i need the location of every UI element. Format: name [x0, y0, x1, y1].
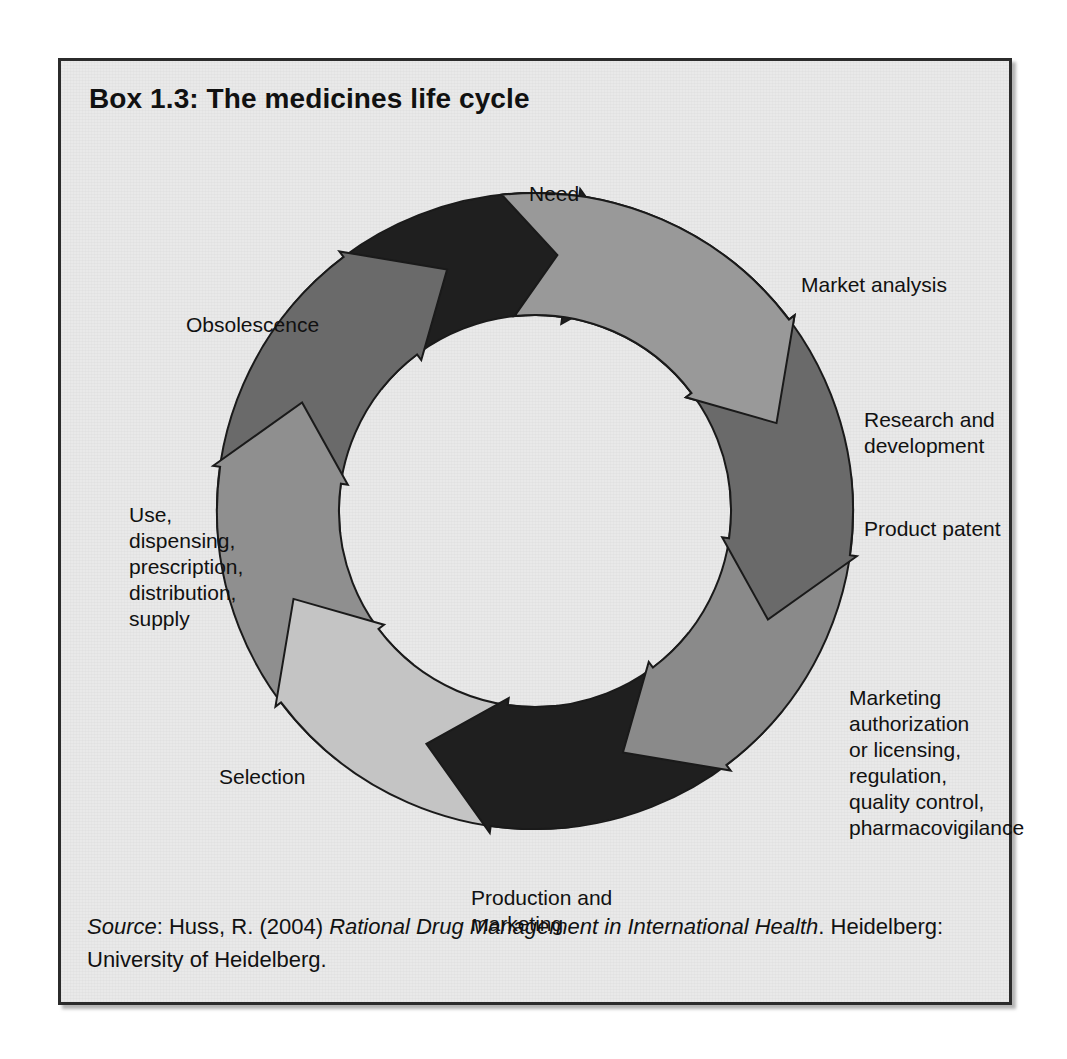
cycle-label-research-and-development: Research and development — [864, 407, 995, 459]
page-root: Box 1.3: The medicines life cycle NeedMa… — [0, 0, 1067, 1059]
medicines-life-cycle-diagram: NeedMarket analysisResearch and developm… — [61, 119, 1009, 919]
source-work-title: Rational Drug Management in Internationa… — [329, 914, 818, 939]
cycle-label-product-patent: Product patent — [864, 516, 1001, 542]
cycle-label-need: Need — [529, 181, 579, 207]
source-author: Huss, R. (2004) — [169, 914, 329, 939]
cycle-label-marketing-authorization: Marketing authorization or licensing, re… — [849, 685, 1024, 841]
cycle-label-selection: Selection — [219, 764, 305, 790]
cycle-label-use-dispensing: Use, dispensing, prescription, distribut… — [129, 502, 243, 632]
cycle-label-obsolescence: Obsolescence — [186, 312, 319, 338]
page-title: Box 1.3: The medicines life cycle — [89, 83, 530, 115]
source-citation: Source: Huss, R. (2004) Rational Drug Ma… — [87, 910, 983, 976]
figure-box: Box 1.3: The medicines life cycle NeedMa… — [58, 58, 1012, 1005]
cycle-label-market-analysis: Market analysis — [801, 272, 947, 298]
source-prefix: Source — [87, 914, 157, 939]
cycle-arrow-need — [502, 193, 795, 423]
source-colon: : — [157, 914, 169, 939]
